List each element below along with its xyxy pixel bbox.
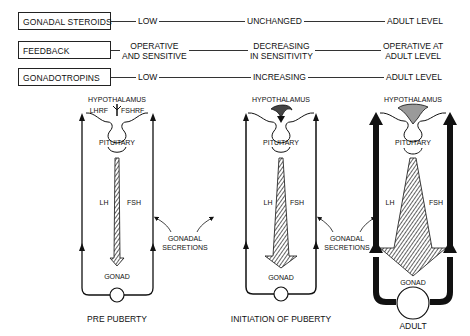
arrowhead-up-icon — [150, 113, 156, 121]
gonadotropin-arrow-icon — [110, 158, 124, 266]
arrowhead-up-icon — [369, 240, 383, 253]
gonad-label: GONAD — [400, 279, 426, 286]
stage-label-pre-puberty: PRE PUBERTY — [87, 314, 147, 324]
secretions-label: SECRETIONS — [324, 244, 370, 251]
gonad-label: GONAD — [268, 274, 294, 281]
arrowhead-up-icon — [313, 113, 319, 121]
lh-label: LH — [100, 199, 109, 206]
pituitary-base — [272, 147, 290, 152]
gonadal-label: GONADAL — [168, 235, 202, 242]
gonadotropin-arrow-icon — [265, 158, 297, 268]
lhrf-label: LHRF — [90, 107, 108, 114]
gonadotropin-arrow-icon — [380, 158, 446, 276]
arrowhead-up-icon — [79, 243, 85, 251]
pituitary-label: PITUITARY — [263, 139, 299, 146]
releasing-factor-arrow-icon — [277, 116, 285, 123]
secretions-label: SECRETIONS — [162, 244, 208, 251]
arrowhead-up-icon — [243, 113, 249, 121]
lh-label: LH — [264, 199, 273, 206]
stage-label-initiation-of-puberty: INITIATION OF PUBERTY — [231, 314, 332, 324]
pituitary-label: PITUITARY — [395, 139, 431, 146]
arrowhead-up-icon — [313, 241, 319, 249]
arrowhead-up-icon — [79, 113, 85, 121]
gonadal-secretions-annotation-2: GONADAL SECRETIONS — [319, 218, 374, 251]
hypothalamus-label: HYPOTHALAMUS — [384, 96, 442, 103]
gonad-circle-icon — [274, 287, 288, 301]
fshrf-label: FSHRF — [121, 107, 144, 114]
stage-label-adult: ADULT — [399, 321, 426, 331]
pointer-arrow-icon — [360, 218, 374, 232]
hypothalamus-label: HYPOTHALAMUS — [88, 96, 146, 103]
arrowhead-up-icon — [443, 240, 457, 253]
arrowhead-up-icon — [369, 112, 383, 125]
gonad-label: GONAD — [104, 273, 130, 280]
diagram-initiation-of-puberty: HYPOTHALAMUS PITUITARY LH FSH GONAD INIT… — [231, 96, 332, 324]
hpg-axis-diagrams: HYPOTHALAMUS LHRF FSHRF PITUITARY LH FSH… — [0, 0, 470, 336]
fsh-label: FSH — [429, 199, 443, 206]
gonad-circle-icon — [110, 288, 124, 302]
fsh-label: FSH — [290, 199, 304, 206]
hypothalamus-label: HYPOTHALAMUS — [252, 96, 310, 103]
diagram-adult: HYPOTHALAMUS PITUITARY LH FSH GONAD ADUL… — [369, 96, 457, 331]
diagram-pre-puberty: HYPOTHALAMUS LHRF FSHRF PITUITARY LH FSH… — [79, 96, 156, 324]
pituitary-base — [108, 147, 126, 152]
lh-label: LH — [386, 199, 395, 206]
pointer-arrow-icon — [319, 218, 333, 232]
line-gap — [446, 253, 454, 257]
pointer-arrow-icon — [197, 218, 212, 232]
arrowhead-up-icon — [443, 112, 457, 125]
gonadal-secretions-annotation-1: GONADAL SECRETIONS — [156, 218, 212, 251]
feedback-line-left — [376, 123, 396, 302]
gonadal-label: GONADAL — [330, 235, 364, 242]
line-gap — [372, 253, 380, 257]
fsh-label: FSH — [127, 199, 141, 206]
gonad-circle-icon — [397, 287, 429, 319]
feedback-line-right — [430, 123, 450, 302]
arrowhead-up-icon — [243, 241, 249, 249]
pituitary-label: PITUITARY — [99, 139, 135, 146]
pointer-arrow-icon — [156, 218, 171, 232]
pituitary-base — [404, 148, 422, 154]
arrowhead-up-icon — [150, 243, 156, 251]
